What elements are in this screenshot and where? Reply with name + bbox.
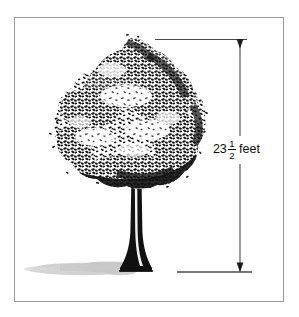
dimension-unit-label: feet	[239, 143, 260, 156]
dimension-fraction: 1 2	[228, 139, 235, 160]
tree-height-figure: 23 1 2 feet Tree height measurement diag…	[0, 0, 299, 317]
tree-canopy	[45, 30, 215, 200]
dimension-fraction-numerator: 1	[228, 139, 235, 149]
dimension-fraction-denominator: 2	[228, 150, 235, 160]
dimension-arrow-top	[237, 39, 244, 49]
dimension-whole-number: 23	[213, 143, 227, 156]
dimension-label: 23 1 2 feet	[213, 139, 260, 160]
dimension-arrow-bottom	[237, 263, 244, 273]
